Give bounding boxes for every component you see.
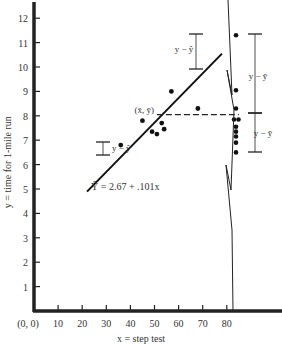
x-tick-label: 50 bbox=[150, 318, 160, 329]
marginal-point bbox=[234, 124, 239, 129]
data-point bbox=[150, 129, 155, 134]
marginal-point bbox=[234, 33, 239, 38]
y-tick-label: 5 bbox=[23, 184, 28, 195]
residual-label-bottom: y − ŷ bbox=[112, 143, 131, 153]
x-tick-label: 30 bbox=[101, 318, 111, 329]
x-tick-label: 60 bbox=[174, 318, 184, 329]
data-point bbox=[169, 89, 174, 94]
x-tick-label: 70 bbox=[198, 318, 208, 329]
marginal-point bbox=[234, 140, 239, 145]
y-tick-label: 6 bbox=[23, 160, 28, 171]
deviation-label-bottom: y − ȳ bbox=[254, 128, 273, 138]
y-tick-label: 7 bbox=[23, 135, 28, 146]
marginal-point bbox=[234, 134, 239, 139]
mean-point-label: (x̄, ȳ) bbox=[134, 105, 154, 115]
marginal-point bbox=[236, 117, 241, 122]
data-point bbox=[159, 121, 164, 126]
deviation-label-top: y − ȳ bbox=[249, 71, 268, 81]
y-tick-label: 1 bbox=[23, 282, 28, 293]
x-tick-label: 80 bbox=[222, 318, 232, 329]
marginal-point bbox=[234, 88, 239, 93]
marginal-point bbox=[234, 150, 239, 155]
x-tick-label: 20 bbox=[77, 318, 87, 329]
scatter-chart: 1234567891011121020304050607080(0, 0)x =… bbox=[0, 0, 282, 344]
axis-break-line bbox=[226, 0, 234, 311]
y-tick-label: 8 bbox=[23, 111, 28, 122]
equation-label: Ŷ = 2.67 + .101x bbox=[91, 181, 160, 192]
y-tick-label: 12 bbox=[18, 13, 28, 24]
regression-line bbox=[87, 54, 222, 192]
y-tick-label: 3 bbox=[23, 233, 28, 244]
origin-label: (0, 0) bbox=[17, 318, 39, 330]
x-axis-title: x = step test bbox=[117, 333, 165, 344]
y-tick-label: 4 bbox=[23, 208, 28, 219]
residual-label-top: y − ŷ bbox=[175, 44, 194, 54]
y-tick-label: 2 bbox=[23, 257, 28, 268]
marginal-point bbox=[234, 129, 239, 134]
y-tick-label: 10 bbox=[18, 62, 28, 73]
data-point bbox=[195, 106, 200, 111]
y-tick-label: 11 bbox=[18, 38, 28, 49]
data-point bbox=[162, 127, 167, 132]
y-axis-title: y = time for 1-mile run bbox=[2, 116, 13, 208]
data-point bbox=[140, 118, 145, 123]
x-tick-label: 10 bbox=[53, 318, 63, 329]
x-tick-label: 40 bbox=[125, 318, 135, 329]
data-point bbox=[155, 132, 160, 137]
y-tick-label: 9 bbox=[23, 86, 28, 97]
